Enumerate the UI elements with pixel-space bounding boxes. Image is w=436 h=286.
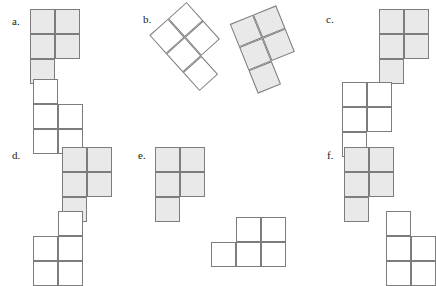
grid-cell bbox=[33, 79, 58, 104]
shape-b-top-left bbox=[149, 2, 236, 91]
grid-cell bbox=[386, 211, 411, 236]
grid-cell bbox=[411, 261, 436, 286]
shape-e-top bbox=[155, 147, 205, 222]
item-label-a: a. bbox=[12, 16, 20, 27]
grid-cell bbox=[30, 9, 55, 34]
grid-cell bbox=[386, 261, 411, 286]
grid-cell bbox=[261, 242, 286, 267]
grid-cell bbox=[369, 172, 394, 197]
grid-cell bbox=[33, 261, 58, 286]
grid-cell bbox=[180, 147, 205, 172]
grid-cell bbox=[367, 82, 392, 107]
grid-cell bbox=[55, 9, 80, 34]
grid-cell bbox=[367, 107, 392, 132]
grid-cell bbox=[33, 236, 58, 261]
grid-cell bbox=[344, 172, 369, 197]
grid-cell bbox=[58, 261, 83, 286]
shape-a-bottom bbox=[33, 79, 83, 154]
shape-b-top-right bbox=[230, 5, 304, 93]
grid-cell bbox=[58, 236, 83, 261]
grid-cell bbox=[261, 217, 286, 242]
grid-cell bbox=[342, 107, 367, 132]
grid-cell bbox=[404, 34, 429, 59]
item-label-c: c. bbox=[326, 14, 334, 25]
shape-a-top bbox=[30, 9, 80, 84]
grid-cell bbox=[58, 211, 83, 236]
grid-cell bbox=[155, 172, 180, 197]
grid-cell bbox=[236, 242, 261, 267]
grid-cell bbox=[180, 172, 205, 197]
grid-cell bbox=[211, 242, 236, 267]
grid-cell bbox=[30, 34, 55, 59]
item-label-e: e. bbox=[138, 150, 146, 161]
grid-cell bbox=[369, 147, 394, 172]
grid-cell bbox=[155, 197, 180, 222]
grid-cell bbox=[342, 82, 367, 107]
item-label-f: f. bbox=[327, 150, 333, 161]
grid-cell bbox=[33, 104, 58, 129]
shape-c-bottom bbox=[342, 82, 392, 157]
grid-cell bbox=[344, 147, 369, 172]
grid-cell bbox=[404, 9, 429, 34]
grid-cell bbox=[33, 129, 58, 154]
shape-e-bottom bbox=[211, 217, 286, 267]
grid-cell bbox=[386, 236, 411, 261]
grid-cell bbox=[411, 236, 436, 261]
shape-f-bottom bbox=[386, 211, 436, 286]
grid-cell bbox=[55, 34, 80, 59]
item-label-b: b. bbox=[143, 14, 151, 25]
grid-cell bbox=[379, 34, 404, 59]
shape-c-top bbox=[379, 9, 429, 84]
grid-cell bbox=[155, 147, 180, 172]
grid-cell bbox=[87, 147, 112, 172]
grid-cell bbox=[379, 9, 404, 34]
grid-cell bbox=[87, 172, 112, 197]
grid-cell bbox=[58, 104, 83, 129]
grid-cell bbox=[379, 59, 404, 84]
grid-cell bbox=[344, 197, 369, 222]
shape-d-bottom bbox=[33, 211, 83, 286]
grid-cell bbox=[62, 172, 87, 197]
item-label-d: d. bbox=[12, 150, 20, 161]
grid-cell bbox=[62, 147, 87, 172]
grid-cell bbox=[236, 217, 261, 242]
